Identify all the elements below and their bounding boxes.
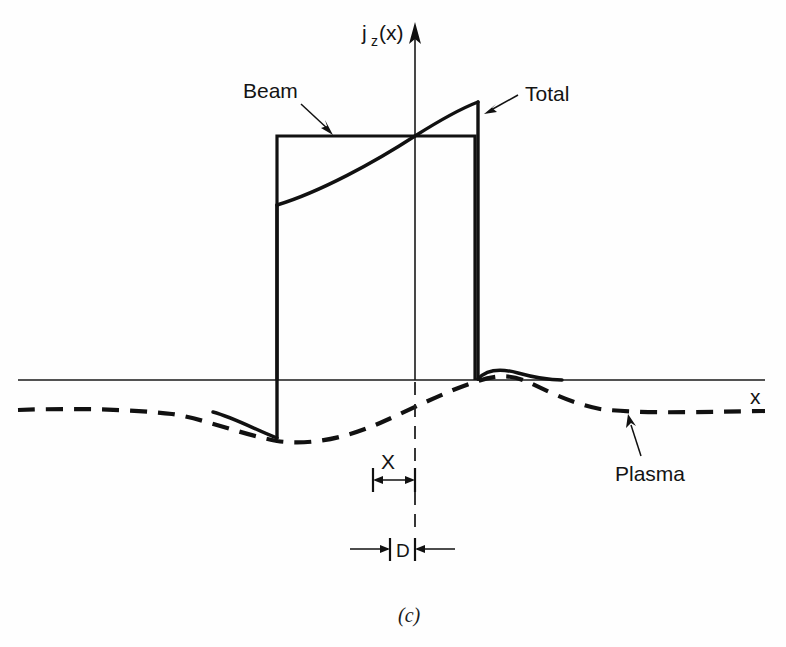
plasma-label: Plasma [615,462,685,485]
dimension-x-left-arrowhead [373,476,383,484]
dimension-x-label: X [381,450,395,473]
figure-container: Beam Total Plasma X D [0,0,786,647]
annotation-total: Total [484,82,569,114]
y-axis-label-main: j [361,21,367,44]
total-interior-curve-path [277,102,478,205]
plasma-profile [18,376,765,442]
axis-labels-group: j z (x) x [361,21,761,408]
dimension-x-right-arrowhead [405,476,415,484]
dimension-d-label: D [396,540,410,561]
axes-group [18,22,765,380]
beam-leader-arrowhead [321,120,333,135]
figure-canvas: Beam Total Plasma X D [0,0,786,647]
total-leader-arrowhead [484,104,497,114]
annotation-plasma: Plasma [615,414,685,485]
beam-label: Beam [243,79,298,102]
annotation-beam: Beam [243,79,333,135]
total-label: Total [525,82,569,105]
dimension-d: D [350,538,455,561]
y-axis-label-subscript: z [371,33,378,49]
dimension-d-left-arrowhead [380,545,390,553]
total-profile [213,102,562,438]
beam-leader-line [301,104,329,130]
dimension-d-right-arrowhead [415,545,425,553]
plasma-curve-path [18,376,765,442]
figure-caption: (c) [398,604,421,627]
total-leader-line [491,95,518,110]
beam-profile [277,136,475,380]
plasma-leader-line [631,425,641,456]
y-axis-label-argument: (x) [379,21,404,44]
beam-rectangle-path [277,136,475,380]
x-axis-label: x [750,385,761,408]
dimension-x: X [373,450,415,492]
